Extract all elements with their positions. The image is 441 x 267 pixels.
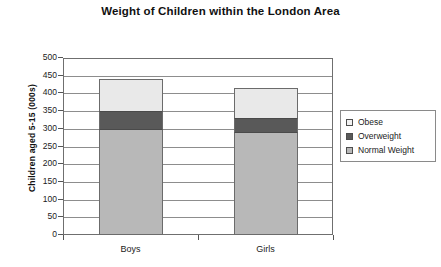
y-axis-tick-label: 200 xyxy=(27,159,57,168)
y-axis-tick-label: 350 xyxy=(27,106,57,115)
legend-swatch-icon xyxy=(346,119,353,126)
legend-label: Obese xyxy=(358,117,383,127)
y-axis-tick-label: 450 xyxy=(27,71,57,80)
bar-boys xyxy=(99,58,163,235)
y-axis-tick-label: 300 xyxy=(27,124,57,133)
legend-label: Normal Weight xyxy=(358,145,414,155)
x-axis-label-boys: Boys xyxy=(91,244,171,254)
bar-girls xyxy=(234,58,298,235)
chart-legend: ObeseOverweightNormal Weight xyxy=(340,110,436,162)
y-axis-tick-label: 0 xyxy=(27,230,57,239)
legend-swatch-icon xyxy=(346,133,353,140)
x-axis-tick-mark xyxy=(63,235,64,240)
y-axis-tick-label: 50 xyxy=(27,212,57,221)
legend-swatch-icon xyxy=(346,147,353,154)
y-axis-tick-label: 150 xyxy=(27,177,57,186)
legend-item-overweight: Overweight xyxy=(346,129,431,143)
bar-segment-overweight xyxy=(99,111,163,129)
legend-item-normal-weight: Normal Weight xyxy=(346,143,431,157)
bar-segment-obese xyxy=(99,79,163,111)
chart-canvas: Weight of Children within the London Are… xyxy=(0,0,441,267)
y-axis-tick-label: 250 xyxy=(27,142,57,151)
bar-segment-obese xyxy=(234,88,298,118)
y-axis-tick-label: 500 xyxy=(27,53,57,62)
legend-label: Overweight xyxy=(358,131,401,141)
y-axis-tick-label: 100 xyxy=(27,195,57,204)
y-axis-tick-label: 400 xyxy=(27,88,57,97)
x-axis-tick-mark xyxy=(333,235,334,240)
legend-item-obese: Obese xyxy=(346,115,431,129)
bar-segment-overweight xyxy=(234,118,298,132)
bar-segment-normal-weight xyxy=(234,132,298,235)
x-axis-label-girls: Girls xyxy=(226,244,306,254)
bar-segment-normal-weight xyxy=(99,129,163,235)
x-axis-tick-mark xyxy=(198,235,199,240)
